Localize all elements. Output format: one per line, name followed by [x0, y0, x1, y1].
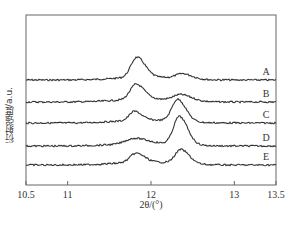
curve-label-B: B — [263, 88, 270, 99]
curve-B — [26, 84, 276, 103]
curve-label-D: D — [262, 132, 269, 143]
curve-label-C: C — [263, 109, 270, 120]
curves — [26, 57, 276, 166]
curve-A — [26, 57, 276, 81]
curve-label-E: E — [263, 151, 269, 162]
x-tick-label: 13.5 — [267, 189, 285, 200]
x-tick-label: 13 — [229, 189, 239, 200]
x-axis-title: 2θ/(°) — [139, 199, 162, 211]
x-tick-label: 10.5 — [17, 189, 35, 200]
x-axis-ticks: 10.511121313.5 — [17, 181, 285, 200]
curve-E — [26, 149, 276, 166]
y-axis-title: 衍射强度/a.u. — [2, 70, 16, 160]
curve-D — [26, 116, 276, 147]
curve-label-A: A — [262, 66, 270, 77]
x-tick-label: 11 — [63, 189, 73, 200]
xrd-chart: 10.511121313.5 ABCDE 2θ/(°) — [0, 0, 298, 226]
